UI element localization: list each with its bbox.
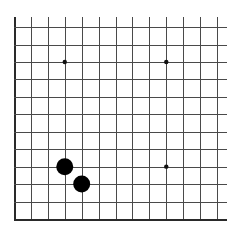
board-intersection[interactable] — [175, 210, 192, 227]
board-intersection[interactable] — [56, 71, 73, 88]
board-intersection[interactable] — [209, 53, 226, 70]
board-intersection[interactable] — [209, 123, 226, 140]
board-intersection[interactable] — [90, 18, 107, 35]
board-intersection[interactable] — [124, 210, 141, 227]
board-intersection[interactable] — [107, 88, 124, 105]
board-intersection[interactable] — [56, 175, 73, 192]
board-intersection[interactable] — [22, 88, 39, 105]
board-intersection[interactable] — [73, 106, 90, 123]
board-intersection[interactable] — [209, 193, 226, 210]
board-intersection[interactable] — [175, 88, 192, 105]
board-intersection[interactable] — [192, 53, 209, 70]
board-intersection[interactable] — [209, 18, 226, 35]
board-intersection[interactable] — [6, 53, 23, 70]
board-intersection[interactable] — [73, 71, 90, 88]
board-intersection[interactable] — [56, 88, 73, 105]
board-intersection[interactable] — [141, 140, 158, 157]
board-intersection[interactable] — [39, 18, 56, 35]
board-intersection[interactable] — [175, 193, 192, 210]
board-intersection[interactable] — [90, 88, 107, 105]
board-intersection[interactable] — [107, 18, 124, 35]
board-intersection[interactable] — [124, 106, 141, 123]
board-intersection[interactable] — [158, 123, 175, 140]
board-intersection[interactable] — [192, 193, 209, 210]
board-intersection[interactable] — [124, 71, 141, 88]
board-intersection[interactable] — [209, 36, 226, 53]
board-intersection[interactable] — [175, 53, 192, 70]
board-intersection[interactable] — [209, 210, 226, 227]
board-intersection[interactable] — [141, 106, 158, 123]
board-intersection[interactable] — [158, 106, 175, 123]
board-intersection[interactable] — [158, 210, 175, 227]
board-intersection[interactable] — [73, 140, 90, 157]
board-intersection[interactable] — [175, 36, 192, 53]
board-intersection[interactable] — [158, 193, 175, 210]
board-intersection[interactable] — [158, 140, 175, 157]
board-intersection[interactable] — [22, 106, 39, 123]
board-intersection[interactable] — [39, 140, 56, 157]
board-intersection[interactable] — [90, 140, 107, 157]
board-intersection[interactable] — [209, 88, 226, 105]
board-intersection[interactable] — [124, 140, 141, 157]
board-intersection[interactable] — [22, 53, 39, 70]
board-intersection[interactable] — [6, 36, 23, 53]
board-intersection[interactable] — [158, 53, 175, 70]
board-intersection[interactable] — [90, 193, 107, 210]
board-intersection[interactable] — [192, 106, 209, 123]
board-intersection[interactable] — [209, 140, 226, 157]
board-intersection[interactable] — [56, 193, 73, 210]
board-intersection[interactable] — [209, 175, 226, 192]
board-intersection[interactable] — [22, 18, 39, 35]
board-intersection[interactable] — [6, 158, 23, 175]
board-intersection[interactable] — [175, 140, 192, 157]
board-intersection[interactable] — [56, 18, 73, 35]
board-intersection[interactable] — [192, 88, 209, 105]
board-intersection[interactable] — [124, 36, 141, 53]
board-intersection[interactable] — [90, 175, 107, 192]
board-intersection[interactable] — [141, 158, 158, 175]
board-intersection[interactable] — [192, 36, 209, 53]
board-intersection[interactable] — [175, 158, 192, 175]
board-intersection[interactable] — [39, 53, 56, 70]
board-intersection[interactable] — [6, 88, 23, 105]
board-intersection[interactable] — [22, 140, 39, 157]
board-intersection[interactable] — [141, 193, 158, 210]
board-intersection[interactable] — [73, 53, 90, 70]
board-intersection[interactable] — [209, 106, 226, 123]
board-intersection[interactable] — [6, 193, 23, 210]
board-intersection[interactable] — [6, 175, 23, 192]
board-intersection[interactable] — [6, 71, 23, 88]
board-intersection[interactable] — [73, 158, 90, 175]
board-intersection[interactable] — [192, 18, 209, 35]
board-intersection[interactable] — [56, 36, 73, 53]
board-intersection[interactable] — [175, 175, 192, 192]
board-intersection[interactable] — [90, 53, 107, 70]
board-intersection[interactable] — [158, 158, 175, 175]
board-intersection[interactable] — [22, 158, 39, 175]
board-intersection[interactable] — [22, 36, 39, 53]
board-intersection[interactable] — [73, 175, 90, 192]
board-intersection[interactable] — [175, 18, 192, 35]
board-intersection[interactable] — [141, 71, 158, 88]
board-intersection[interactable] — [192, 175, 209, 192]
board-intersection[interactable] — [141, 210, 158, 227]
board-intersection[interactable] — [90, 71, 107, 88]
board-intersection[interactable] — [39, 71, 56, 88]
board-intersection[interactable] — [6, 210, 23, 227]
board-intersection[interactable] — [22, 175, 39, 192]
board-intersection[interactable] — [90, 210, 107, 227]
go-board-grid[interactable] — [0, 0, 245, 230]
board-intersection[interactable] — [158, 36, 175, 53]
board-intersection[interactable] — [141, 36, 158, 53]
board-intersection[interactable] — [107, 193, 124, 210]
board-intersection[interactable] — [175, 106, 192, 123]
board-intersection[interactable] — [107, 53, 124, 70]
board-intersection[interactable] — [22, 193, 39, 210]
board-intersection[interactable] — [39, 158, 56, 175]
board-intersection[interactable] — [141, 18, 158, 35]
board-intersection[interactable] — [73, 36, 90, 53]
go-board[interactable] — [0, 0, 245, 230]
board-intersection[interactable] — [22, 71, 39, 88]
board-intersection[interactable] — [124, 53, 141, 70]
board-intersection[interactable] — [192, 210, 209, 227]
